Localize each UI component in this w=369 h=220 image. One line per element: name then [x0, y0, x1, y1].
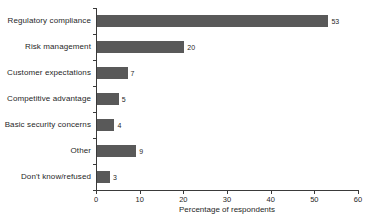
bar-row: Competitive advantage 5: [96, 86, 358, 112]
x-axis-tick: [140, 190, 141, 194]
x-axis-title: Percentage of respondents: [96, 205, 358, 214]
bar-row: Risk management 20: [96, 34, 358, 60]
x-axis-tick: [227, 190, 228, 194]
bar[interactable]: [97, 171, 110, 183]
x-axis-tick-label: 30: [223, 195, 231, 204]
bar[interactable]: [97, 145, 136, 157]
x-axis-tick-label: 20: [179, 195, 187, 204]
x-axis-tick: [96, 190, 97, 194]
category-label: Basic security concerns: [0, 112, 91, 138]
x-axis-tick-label: 10: [135, 195, 143, 204]
y-axis-tick: [93, 34, 96, 35]
x-axis-tick: [314, 190, 315, 194]
category-label: Don't know/refused: [0, 164, 91, 190]
bar[interactable]: [97, 41, 184, 53]
x-axis-tick: [183, 190, 184, 194]
y-axis-tick: [93, 8, 96, 9]
bar-value-label: 5: [119, 93, 126, 105]
bar-chart: Regulatory compliance 53 Risk management…: [0, 0, 369, 220]
category-label: Other: [0, 138, 91, 164]
bar-row: Regulatory compliance 53: [96, 8, 358, 34]
bar-row: Other 9: [96, 138, 358, 164]
category-label: Risk management: [0, 34, 91, 60]
bar-value-label: 53: [328, 15, 339, 27]
bar-value-label: 20: [184, 41, 195, 53]
bar-value-label: 4: [114, 119, 121, 131]
bar[interactable]: [97, 119, 114, 131]
y-axis-tick: [93, 86, 96, 87]
x-axis-tick-label: 0: [94, 195, 98, 204]
category-label: Regulatory compliance: [0, 8, 91, 34]
bar-row: Customer expectations 7: [96, 60, 358, 86]
x-axis-tick: [271, 190, 272, 194]
bar[interactable]: [97, 67, 128, 79]
y-axis-tick: [93, 112, 96, 113]
x-axis-tick-label: 50: [310, 195, 318, 204]
bar-row: Don't know/refused 3: [96, 164, 358, 190]
y-axis-tick: [93, 138, 96, 139]
category-label: Customer expectations: [0, 60, 91, 86]
bar-row: Basic security concerns 4: [96, 112, 358, 138]
bar[interactable]: [97, 93, 119, 105]
category-label: Competitive advantage: [0, 86, 91, 112]
plot-area: Regulatory compliance 53 Risk management…: [96, 8, 358, 190]
y-axis-tick: [93, 164, 96, 165]
x-axis-tick: [358, 190, 359, 194]
bar[interactable]: [97, 15, 328, 27]
bar-value-label: 3: [110, 171, 117, 183]
bar-value-label: 9: [136, 145, 143, 157]
x-axis-tick-label: 40: [266, 195, 274, 204]
bar-value-label: 7: [128, 67, 135, 79]
x-axis-tick-label: 60: [354, 195, 362, 204]
y-axis-tick: [93, 60, 96, 61]
